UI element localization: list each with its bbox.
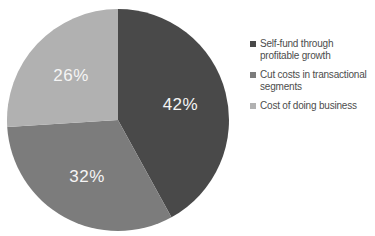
legend-label-line: Cut costs in transactional [260,69,367,81]
legend-label: Cut costs in transactionalsegments [260,69,367,93]
legend-item: Self-fund throughprofitable growth [250,38,367,62]
legend-swatch-icon [250,72,256,78]
legend: Self-fund throughprofitable growthCut co… [250,38,367,112]
legend-label: Cost of doing business [260,100,357,112]
pie-chart-figure: 42%32%26% Self-fund throughprofitable gr… [0,0,375,236]
slice-value-label: 32% [69,167,105,186]
legend-swatch-icon [250,103,256,109]
legend-label-line: Cost of doing business [260,100,357,112]
slice-value-label: 26% [53,66,89,85]
legend-swatch-icon [250,41,256,47]
pie-chart: 42%32%26% [0,0,240,236]
legend-label: Self-fund throughprofitable growth [260,38,333,62]
slice-value-label: 42% [163,95,199,114]
legend-item: Cut costs in transactionalsegments [250,69,367,93]
legend-label-line: segments [260,81,367,93]
legend-item: Cost of doing business [250,100,367,112]
legend-label-line: Self-fund through [260,38,333,50]
legend-label-line: profitable growth [260,50,333,62]
